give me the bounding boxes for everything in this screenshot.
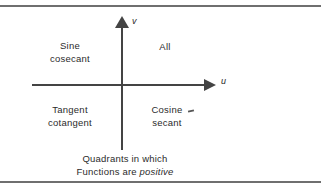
caption-line-1: Quadrants in which	[40, 152, 210, 165]
quadrant-label-ii: Sine cosecant	[28, 39, 112, 65]
vertical-axis-label: v	[132, 16, 137, 26]
horizontal-axis-line	[32, 84, 207, 86]
arrow-right-icon	[204, 79, 216, 91]
figure-bottom-rule	[0, 181, 321, 183]
quadrant-label-i: All	[134, 40, 196, 53]
figure-top-rule	[0, 5, 321, 7]
caption-line-2-prefix: Functions are	[77, 166, 140, 177]
quadrant-ii-line1: Sine	[28, 39, 112, 52]
quadrant-ii-line2: cosecant	[28, 52, 112, 65]
horizontal-axis-label: u	[221, 76, 226, 86]
vertical-axis-line	[121, 26, 123, 150]
quadrant-label-iii: Tangent cotangent	[28, 103, 112, 129]
arrow-up-icon	[115, 16, 129, 28]
quadrant-iii-line1: Tangent	[28, 103, 112, 116]
figure-caption: Quadrants in which Functions are positiv…	[40, 152, 210, 178]
quadrant-label-iv: Cosine secant	[134, 103, 200, 129]
quadrant-iv-line2: secant	[134, 116, 200, 129]
quadrant-i-line1: All	[134, 40, 196, 53]
caption-line-2: Functions are positive	[40, 165, 210, 178]
caption-line-2-emphasis: positive	[140, 166, 174, 177]
quadrant-iii-line2: cotangent	[28, 116, 112, 129]
trigonometric-quadrant-figure: v u Sine cosecant All Tangent cotangent …	[0, 0, 321, 194]
